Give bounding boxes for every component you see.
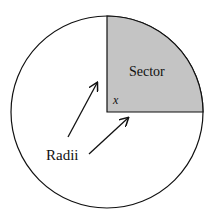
circle-sector-diagram: Sector x Radii: [0, 0, 214, 224]
radii-label: Radii: [46, 147, 79, 163]
angle-label: x: [112, 93, 119, 107]
sector-label: Sector: [129, 64, 165, 79]
